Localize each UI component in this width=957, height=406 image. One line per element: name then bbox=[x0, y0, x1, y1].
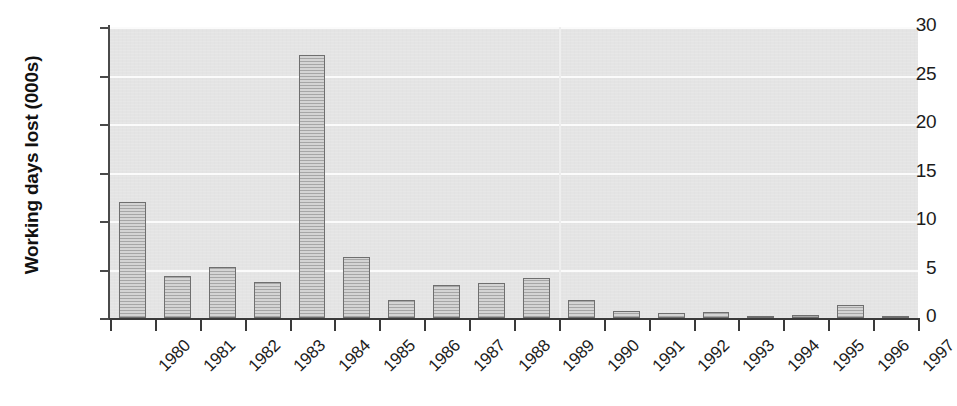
x-axis-label: 1988 bbox=[514, 336, 554, 376]
gridline bbox=[110, 221, 918, 223]
plot-area bbox=[110, 27, 918, 318]
y-axis-tick bbox=[100, 270, 109, 272]
gridline bbox=[110, 27, 918, 29]
bar bbox=[523, 278, 550, 318]
x-axis-label: 1991 bbox=[649, 336, 689, 376]
x-axis-tick bbox=[918, 320, 920, 331]
bar bbox=[568, 300, 595, 318]
x-axis-tick bbox=[559, 320, 561, 331]
x-axis-tick bbox=[514, 320, 516, 331]
x-axis-tick bbox=[828, 320, 830, 331]
bar bbox=[343, 257, 370, 318]
x-axis-label: 1986 bbox=[424, 336, 464, 376]
x-axis-tick bbox=[290, 320, 292, 331]
y-axis-tick bbox=[100, 318, 109, 320]
bar bbox=[433, 285, 460, 318]
gridline bbox=[110, 76, 918, 78]
y-axis-tick-label: 10 bbox=[844, 208, 936, 230]
x-axis-tick bbox=[604, 320, 606, 331]
bar bbox=[388, 300, 415, 318]
bar bbox=[119, 202, 146, 318]
x-axis-tick bbox=[379, 320, 381, 331]
x-axis-tick bbox=[469, 320, 471, 331]
x-axis-label: 1981 bbox=[200, 336, 240, 376]
y-axis-tick bbox=[100, 124, 109, 126]
x-axis-tick bbox=[245, 320, 247, 331]
x-axis-label: 1990 bbox=[604, 336, 644, 376]
x-axis-label: 1983 bbox=[290, 336, 330, 376]
x-axis-tick bbox=[424, 320, 426, 331]
x-axis-label: 1985 bbox=[380, 336, 420, 376]
vertical-gridline bbox=[559, 27, 561, 318]
bar bbox=[299, 55, 326, 318]
x-axis-tick bbox=[738, 320, 740, 331]
x-axis-label: 1994 bbox=[784, 336, 824, 376]
x-axis-tick bbox=[155, 320, 157, 331]
gridline bbox=[110, 173, 918, 175]
y-axis-tick-label: 20 bbox=[844, 111, 936, 133]
x-axis-tick bbox=[200, 320, 202, 331]
bar bbox=[209, 267, 236, 318]
y-axis-tick bbox=[100, 76, 109, 78]
bar bbox=[254, 282, 281, 318]
x-axis-label: 1989 bbox=[559, 336, 599, 376]
y-axis-tick-label: 30 bbox=[844, 14, 936, 36]
x-axis-label: 1992 bbox=[694, 336, 734, 376]
y-axis-tick bbox=[100, 221, 109, 223]
x-axis-tick bbox=[110, 320, 112, 331]
y-axis-title: Working days lost (000s) bbox=[21, 15, 43, 315]
y-axis-tick-label: 15 bbox=[844, 160, 936, 182]
x-axis-label: 1996 bbox=[873, 336, 913, 376]
bar bbox=[613, 311, 640, 318]
y-axis-tick-label: 0 bbox=[844, 305, 936, 327]
y-axis-tick bbox=[100, 27, 109, 29]
y-axis-tick bbox=[100, 173, 109, 175]
x-axis-label: 1997 bbox=[918, 336, 957, 376]
x-axis-tick bbox=[649, 320, 651, 331]
x-axis-label: 1984 bbox=[335, 336, 375, 376]
y-axis-tick-label: 25 bbox=[844, 63, 936, 85]
x-axis-tick bbox=[783, 320, 785, 331]
x-axis-label: 1982 bbox=[245, 336, 285, 376]
bar bbox=[164, 276, 191, 318]
x-axis-label: 1987 bbox=[469, 336, 509, 376]
bar bbox=[478, 283, 505, 318]
x-axis-tick bbox=[334, 320, 336, 331]
y-axis-tick-label: 5 bbox=[844, 257, 936, 279]
x-axis-label: 1995 bbox=[828, 336, 868, 376]
x-axis-label: 1980 bbox=[155, 336, 195, 376]
gridline bbox=[110, 124, 918, 126]
x-axis-tick bbox=[694, 320, 696, 331]
x-axis-tick bbox=[873, 320, 875, 331]
x-axis-label: 1993 bbox=[739, 336, 779, 376]
